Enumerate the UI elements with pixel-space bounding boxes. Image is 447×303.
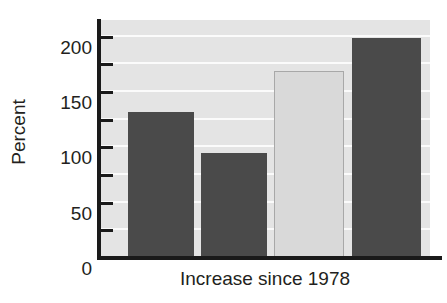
- x-axis-line: [97, 256, 442, 260]
- bars-group: [100, 20, 430, 258]
- y-tick-mark: [101, 36, 113, 39]
- plot-area: [100, 20, 430, 258]
- y-axis-tick-labels: 050100150200: [30, 30, 92, 266]
- y-axis-title: Percent: [8, 87, 30, 177]
- bar-3: [274, 71, 344, 258]
- x-axis-title: Increase since 1978: [100, 268, 430, 290]
- bar-2: [201, 153, 267, 258]
- y-tick-mark: [101, 229, 113, 232]
- y-axis-line: [97, 19, 101, 260]
- y-tick-mark: [101, 119, 113, 122]
- y-tick-mark: [101, 63, 113, 66]
- y-tick-mark: [101, 257, 113, 260]
- y-tick-label-150: 150: [30, 92, 92, 111]
- y-tick-label-100: 100: [30, 148, 92, 167]
- bar-1: [128, 112, 194, 258]
- bar-chart-figure: Percent 050100150200 Increase since 1978: [0, 0, 447, 303]
- y-tick-mark: [101, 202, 113, 205]
- y-tick-mark: [101, 174, 113, 177]
- y-tick-label-50: 50: [30, 203, 92, 222]
- y-tick-label-200: 200: [30, 37, 92, 56]
- y-tick-mark: [101, 91, 113, 94]
- y-tick-mark: [101, 146, 113, 149]
- bar-4: [352, 38, 421, 258]
- y-tick-label-0: 0: [30, 259, 92, 278]
